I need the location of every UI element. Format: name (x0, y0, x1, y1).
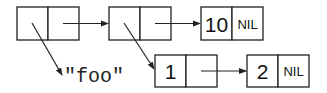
cell-3-car-value: 10 (205, 13, 228, 36)
cell-5-nil-label: NIL (283, 64, 303, 79)
cons-cell-5: 2 NIL (247, 55, 309, 87)
cons-diagram: 10 NIL 1 2 NIL "foo" (0, 0, 327, 93)
cell-3-nil-label: NIL (237, 17, 257, 32)
cell-5-car-value: 2 (257, 60, 269, 83)
cell-4-car-value: 1 (165, 60, 177, 83)
string-foo-label: "foo" (64, 65, 124, 88)
cons-cell-3: 10 NIL (201, 7, 263, 40)
